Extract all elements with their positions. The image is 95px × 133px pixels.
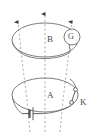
coil-a-label: A [47, 91, 54, 100]
field-lines-group [18, 14, 72, 132]
field-line-left [18, 22, 30, 132]
battery-icon [22, 107, 41, 120]
figure-canvas: B A G K [0, 0, 95, 133]
switch-lever [72, 91, 75, 100]
diagram-svg [0, 0, 95, 133]
coil-a-left-lead [12, 97, 22, 114]
galvanometer-label: G [68, 33, 74, 41]
switch-terminal-lower [70, 101, 74, 105]
switch-label: K [80, 98, 87, 107]
coil-b-label: B [47, 35, 53, 44]
switch-terminal-upper [74, 88, 78, 92]
